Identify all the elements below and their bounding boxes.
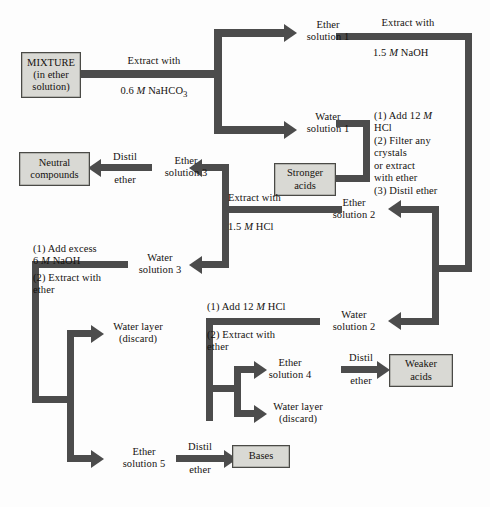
edge-label-extract-hcl-line2: 1.5 M HCl: [228, 221, 338, 233]
naoh-prefix: 1.5: [373, 47, 389, 58]
hcl12-suffix: HCl: [265, 301, 286, 312]
hcl-prefix: 1.5: [228, 221, 244, 232]
edge-label-distil-top: Distil: [96, 151, 154, 163]
connector-to-water3: [201, 261, 229, 268]
edge-label-extract-naoh-line1: Extract with: [352, 17, 464, 29]
hcl-step1-prefix: (1) Add 12: [374, 110, 423, 121]
arrowhead-water2: [388, 312, 401, 330]
box-bases[interactable]: Bases: [232, 445, 290, 468]
node-label-water-layer-bottom: Water layer (discard): [258, 401, 338, 426]
edge-label-distil-bases: Distil: [172, 441, 228, 453]
edge-label-naoh-excess-step1: (1) Add excess 6 M NaOH: [33, 243, 153, 268]
nahco3-subscript: 3: [183, 89, 187, 99]
edge-label-naoh-excess-step2: (2) Extract with ether: [33, 272, 153, 297]
edge-label-extract-nahco3-line1: Extract with: [96, 55, 212, 67]
edge-label-hcl-step2: (2) Filter any crystals or extract with …: [374, 135, 484, 185]
arrowhead-ether2: [388, 200, 401, 218]
connector-fork3-top-arm: [234, 366, 256, 373]
node-label-ether5: Ether solution 5: [112, 446, 176, 471]
connector-extract-hcl-vertical: [222, 164, 229, 268]
nahco3-prefix: 0.6: [120, 85, 136, 96]
connector-water1-to-strongacid-v: [363, 120, 370, 182]
hcl12-prefix: (1) Add 12: [207, 301, 256, 312]
connector-water2-to-fork3-h: [206, 318, 320, 325]
edge-label-ether-bases: ether: [172, 464, 228, 476]
connector-rail-to-ether2-vertical: [432, 206, 439, 266]
connector-fork1-vertical: [214, 29, 222, 134]
arrowhead-ether5: [91, 450, 104, 468]
nahco3-suffix: NaHCO: [145, 85, 183, 96]
box-neutral-compounds[interactable]: Neutral compounds: [19, 152, 90, 186]
connector-fork1-top-arm: [214, 29, 286, 37]
connector-strongacid-in: [330, 175, 370, 182]
node-label-ether3: Ether solution 3: [154, 155, 218, 180]
connector-fork2-top-arm: [67, 330, 93, 337]
edge-label-ether-top: ether: [96, 174, 154, 186]
node-label-water1: Water solution 1: [296, 111, 360, 136]
hcl-step1-molarity-symbol: M: [423, 110, 432, 121]
edge-label-hcl12-step1: (1) Add 12 M HCl: [207, 301, 331, 313]
hcl-suffix: HCl: [253, 221, 274, 232]
edge-label-hcl-step3: (3) Distil ether: [374, 185, 484, 197]
connector-ether4-to-weakacids: [341, 366, 379, 373]
edge-label-ether-weak: ether: [333, 375, 389, 387]
connector-fork1-bottom-arm: [214, 126, 286, 134]
naoh-molarity-symbol: M: [389, 47, 398, 58]
naoh-suffix: NaOH: [398, 47, 429, 58]
connector-rail-to-water2-horizontal: [400, 318, 439, 325]
connector-ether3-to-neutral: [100, 164, 152, 171]
box-weaker-acids[interactable]: Weaker acids: [389, 354, 453, 387]
flowchart-canvas: MIXTURE (in ether solution) Neutral comp…: [0, 0, 490, 507]
connector-fork2-bottom-arm: [67, 455, 93, 462]
edge-label-extract-naoh-line2: 1.5 M NaOH: [373, 47, 485, 59]
node-label-water-layer-top: Water layer (discard): [98, 321, 178, 346]
edge-label-extract-hcl-line1: Extract with: [228, 192, 338, 204]
connector-ether5-to-bases: [176, 455, 226, 462]
naoh-excess-molarity-symbol: M: [41, 255, 50, 266]
connector-right-rail-lower-vertical: [432, 265, 439, 325]
naoh-excess-suffix: NaOH: [50, 255, 81, 266]
connector-fork3-bottom-arm: [234, 410, 256, 417]
hcl-molarity-symbol: M: [244, 221, 253, 232]
node-label-water2: Water solution 2: [322, 309, 386, 334]
node-label-ether1: Ether solution 1: [296, 19, 360, 44]
edge-label-hcl-step1: (1) Add 12 M HCl: [374, 110, 484, 135]
connector-fork2-vertical: [67, 330, 74, 462]
connector-rail-to-ether2-horizontal: [400, 206, 439, 213]
hcl12-molarity-symbol: M: [256, 301, 265, 312]
edge-label-hcl12-step2: (2) Extract with ether: [207, 329, 331, 354]
connector-mixture-to-fork: [79, 70, 220, 78]
edge-label-extract-nahco3-line2: 0.6 M NaHCO3: [96, 85, 212, 101]
node-label-ether4: Ether solution 4: [258, 357, 322, 382]
hcl-step1-suffix: HCl: [374, 122, 392, 133]
edge-label-distil-weak: Distil: [333, 352, 389, 364]
box-mixture[interactable]: MIXTURE (in ether solution): [21, 52, 81, 98]
